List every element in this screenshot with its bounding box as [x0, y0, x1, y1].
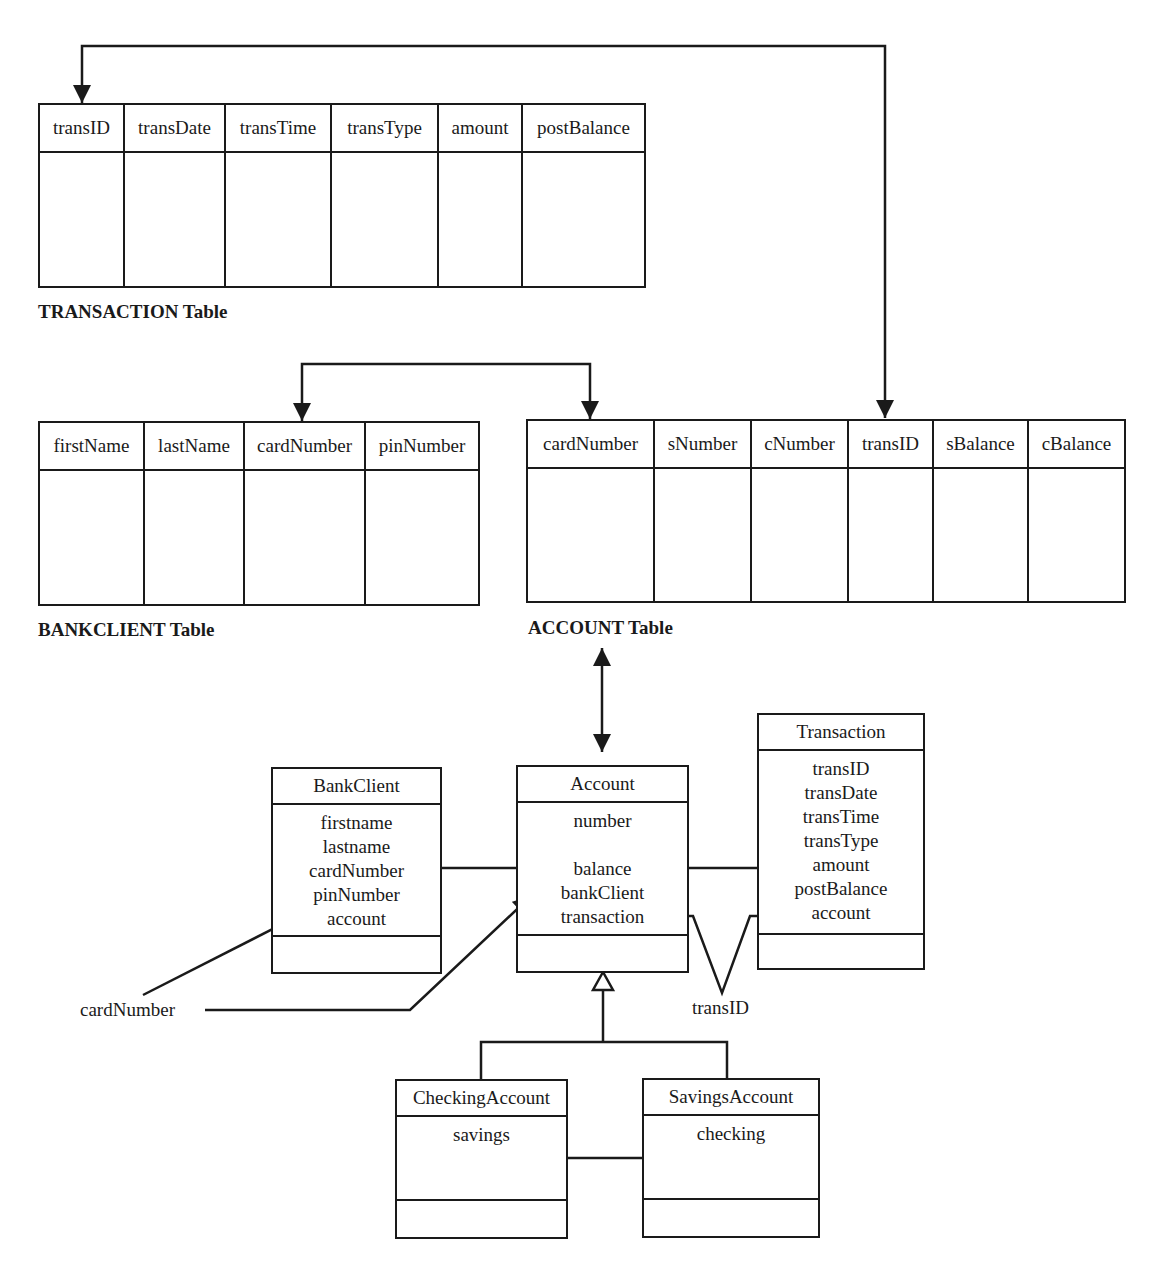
class-bankclient: BankClient firstname lastname cardNumber… [271, 767, 442, 974]
class-attributes: number balance bankClient transaction [518, 803, 687, 936]
bankclient-table: firstName lastName cardNumber pinNumber [38, 421, 480, 606]
attribute: bankClient [561, 881, 644, 905]
account-table-caption: ACCOUNT Table [528, 617, 673, 639]
attribute: account [327, 907, 386, 931]
column-lastname: lastName [145, 423, 245, 604]
attribute: lastname [323, 835, 391, 859]
column-snumber: sNumber [655, 421, 752, 601]
attribute: checking [697, 1122, 766, 1146]
transaction-table: transID transDate transTime transType am… [38, 103, 646, 288]
class-name: Transaction [759, 715, 923, 751]
attribute: transaction [561, 905, 644, 929]
class-name: Account [518, 767, 687, 803]
attribute: pinNumber [313, 883, 400, 907]
class-account: Account number balance bankClient transa… [516, 765, 689, 973]
column-cardnumber: cardNumber [245, 423, 366, 604]
attribute: transID [813, 757, 870, 781]
class-operations [759, 935, 923, 968]
column-amount: amount [439, 105, 523, 286]
bankclient-table-caption: BANKCLIENT Table [38, 619, 215, 641]
class-attributes: savings [397, 1117, 566, 1201]
attribute: transDate [805, 781, 878, 805]
column-cbalance: cBalance [1029, 421, 1124, 601]
class-operations [518, 936, 687, 971]
attribute: amount [813, 853, 870, 877]
attribute: number [573, 809, 631, 833]
column-transid: transID [849, 421, 934, 601]
cardnumber-annotation-label: cardNumber [80, 999, 175, 1021]
class-name: CheckingAccount [397, 1081, 566, 1117]
class-operations [644, 1200, 818, 1236]
generalization-triangle-icon [593, 972, 613, 990]
transid-annotation-label: transID [692, 997, 749, 1019]
column-transdate: transDate [125, 105, 226, 286]
attribute: savings [453, 1123, 510, 1147]
class-attributes: checking [644, 1116, 818, 1200]
column-transtime: transTime [226, 105, 332, 286]
account-table: cardNumber sNumber cNumber transID sBala… [526, 419, 1126, 603]
column-pinnumber: pinNumber [366, 423, 478, 604]
fk-arrow-cardnumber [302, 364, 590, 421]
class-attributes: transID transDate transTime transType am… [759, 751, 923, 935]
column-cnumber: cNumber [752, 421, 849, 601]
class-savingsaccount: SavingsAccount checking [642, 1078, 820, 1238]
attribute: account [811, 901, 870, 925]
attribute: transType [804, 829, 879, 853]
class-checkingaccount: CheckingAccount savings [395, 1079, 568, 1239]
transaction-table-caption: TRANSACTION Table [38, 301, 228, 323]
column-sbalance: sBalance [934, 421, 1029, 601]
class-operations [273, 937, 440, 972]
attribute: cardNumber [309, 859, 404, 883]
column-firstname: firstName [40, 423, 145, 604]
column-cardnumber: cardNumber [528, 421, 655, 601]
attribute: balance [573, 857, 631, 881]
class-name: BankClient [273, 769, 440, 805]
attribute: firstname [321, 811, 393, 835]
attribute: postBalance [795, 877, 888, 901]
class-operations [397, 1201, 566, 1237]
class-name: SavingsAccount [644, 1080, 818, 1116]
class-attributes: firstname lastname cardNumber pinNumber … [273, 805, 440, 937]
column-postbalance: postBalance [523, 105, 644, 286]
column-transid: transID [40, 105, 125, 286]
attribute: transTime [803, 805, 879, 829]
class-transaction: Transaction transID transDate transTime … [757, 713, 925, 970]
column-transtype: transType [332, 105, 439, 286]
generalization-branch [481, 1042, 727, 1079]
